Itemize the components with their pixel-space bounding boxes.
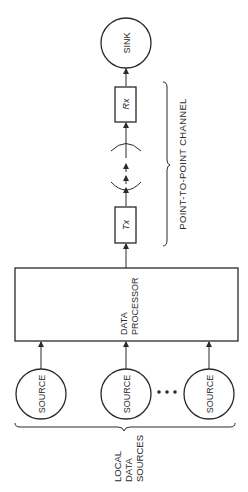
local-sources-brace [15, 423, 235, 431]
tx-node: Tx [115, 207, 136, 243]
source-label-1: SOURCE [37, 375, 47, 414]
local-sources-label-line1: LOCAL [112, 451, 123, 482]
ellipsis-dots [157, 390, 177, 394]
source-node-1: SOURCE [16, 369, 66, 419]
data-processor-node: DATA PROCESSOR [15, 268, 238, 341]
local-sources-label-line2: DATA [123, 457, 134, 482]
processor-label-line1: DATA [119, 312, 129, 335]
source-node-3: SOURCE [184, 369, 234, 419]
source-label-3: SOURCE [205, 375, 215, 414]
sink-label: SINK [122, 32, 132, 53]
tx-label: Tx [121, 220, 131, 230]
channel-label: POINT-TO-POINT CHANNEL [177, 98, 188, 229]
rx-node: Rx [115, 87, 136, 122]
local-sources-label-line3: SOURCES [134, 435, 145, 482]
source-node-2: SOURCE [101, 369, 151, 419]
source-label-2: SOURCE [122, 375, 132, 414]
channel-bracket [163, 82, 170, 246]
sink-node: SINK [101, 18, 151, 68]
diagram-canvas: SINK Rx Tx POINT-TO-POINT CHANNEL DATA P… [0, 0, 248, 492]
rx-label: Rx [121, 98, 131, 109]
processor-label-line2: PROCESSOR [130, 277, 140, 335]
